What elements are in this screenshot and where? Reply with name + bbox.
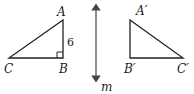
line-of-reflection: m (96, 7, 112, 94)
vertex-label-b: B (58, 62, 68, 76)
line-label-m: m (101, 80, 112, 94)
right-angle-marker (57, 52, 63, 58)
triangle-image-shape (130, 20, 183, 58)
vertex-label-c-prime: C′ (177, 62, 189, 76)
triangle-abc-shape (9, 20, 63, 58)
side-length-label: 6 (67, 36, 74, 49)
triangle-a-prime-b-prime-c-prime: A′ B′ C′ (123, 4, 189, 76)
triangle-abc: A B C 6 (4, 5, 74, 76)
vertex-label-a-prime: A′ (135, 4, 148, 18)
vertex-label-a: A (56, 5, 66, 19)
vertex-label-b-prime: B′ (123, 62, 136, 76)
reflection-diagram: A B C 6 m A′ B′ C′ (0, 0, 194, 94)
vertex-label-c: C (4, 62, 13, 76)
